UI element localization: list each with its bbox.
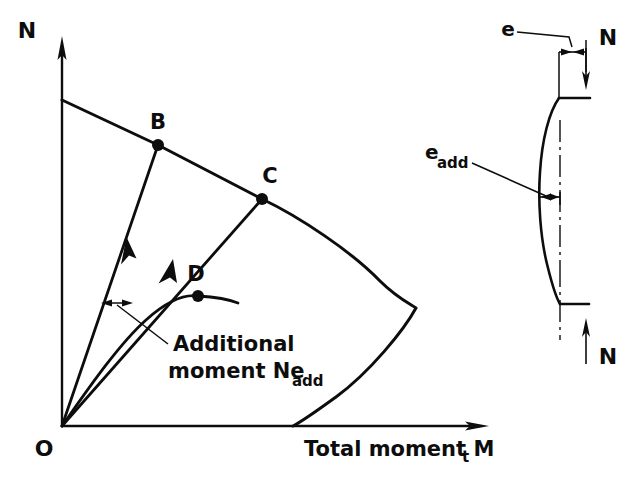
load-path-oc-arrowhead <box>159 259 178 284</box>
annotation-line-2: moment Ne <box>168 359 305 383</box>
axial-load-bottom-label: N <box>599 344 617 369</box>
additional-moment-leader-line <box>117 305 168 344</box>
axial-load-top-label: N <box>599 25 617 50</box>
annotation-line-2-subscript: add <box>292 372 324 390</box>
x-axis-label-subscript: t <box>462 448 469 466</box>
load-path-ob <box>62 145 158 426</box>
additional-moment-annotation-leader <box>101 300 168 345</box>
additional-moment-arrowhead-right <box>122 300 133 307</box>
y-axis-label: N <box>18 18 36 43</box>
column-deflected-profile <box>539 98 560 304</box>
additional-eccentricity-label-subscript: add <box>437 154 469 172</box>
axial-load-bottom-arrow <box>582 318 590 364</box>
eccentricity-arrowhead-right <box>573 49 584 56</box>
figure-container: N O B C D Total moment M t Additional mo… <box>0 0 642 488</box>
annotation-line-1: Additional <box>173 332 295 356</box>
eccentricity-dimension-group <box>517 32 586 97</box>
point-label-d: D <box>187 262 204 286</box>
load-path-oc-line <box>62 199 262 426</box>
load-path-ob-line <box>62 145 158 426</box>
column-deflection-sketch: e N e add N <box>425 17 617 369</box>
eccentricity-leader-line <box>517 32 572 47</box>
origin-label: O <box>35 436 54 461</box>
eccentricity-label: e <box>501 17 515 41</box>
eccentricity-arrowhead-left <box>561 49 572 56</box>
x-axis-label-group: Total moment M t <box>304 437 494 466</box>
load-path-oc <box>62 199 262 426</box>
additional-eccentricity-leader-line <box>472 163 546 196</box>
additional-eccentricity-arrowhead-right <box>550 194 559 201</box>
point-marker-d <box>192 290 204 302</box>
additional-eccentricity-dimension-group <box>472 163 560 205</box>
point-marker-b <box>152 139 164 151</box>
point-label-c: C <box>262 164 277 188</box>
additional-moment-annotation-text: Additional moment Ne add <box>168 332 324 390</box>
point-marker-c <box>256 193 268 205</box>
point-label-b: B <box>150 110 166 134</box>
interaction-diagram: N O B C D Total moment M t Additional mo… <box>0 0 642 488</box>
additional-eccentricity-label-group: e add <box>425 140 469 172</box>
